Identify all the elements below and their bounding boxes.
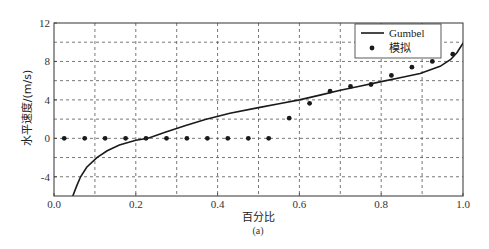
gumbel-line-series — [73, 43, 463, 196]
data-point — [430, 59, 435, 64]
chart: 0.00.20.40.60.81.0 -404812 百分比 (a) 水平速度/… — [0, 0, 489, 249]
legend: Gumbel 模拟 — [355, 24, 441, 58]
data-point — [225, 136, 230, 141]
legend-label-simulation: 模拟 — [389, 41, 411, 55]
gumbel-curve — [73, 43, 463, 196]
x-tick-label: 0.4 — [211, 198, 225, 210]
figure-caption: (a) — [252, 225, 263, 237]
data-point — [266, 136, 271, 141]
data-point — [328, 89, 333, 94]
y-tick-label: 0 — [45, 132, 51, 144]
legend-label-gumbel: Gumbel — [389, 27, 424, 39]
data-point — [450, 52, 455, 57]
data-point — [82, 136, 87, 141]
data-point — [348, 84, 353, 89]
data-point — [410, 65, 415, 70]
data-point — [164, 136, 169, 141]
x-tick-label: 1.0 — [456, 198, 470, 210]
data-point — [185, 136, 190, 141]
data-point — [103, 136, 108, 141]
x-tick-label: 0.8 — [374, 198, 388, 210]
data-point — [123, 136, 128, 141]
y-tick-label: -4 — [41, 171, 51, 183]
x-axis-label: 百分比 — [242, 211, 275, 224]
data-point — [205, 136, 210, 141]
data-point — [307, 101, 312, 106]
y-tick-label: 8 — [45, 55, 51, 67]
x-tick-label: 0.6 — [293, 198, 307, 210]
data-point — [62, 136, 67, 141]
y-axis-label: 水平速度/(m/s) — [20, 70, 34, 146]
data-point — [144, 136, 149, 141]
x-tick-label: 0.0 — [47, 198, 61, 210]
x-tick-label: 0.2 — [129, 198, 143, 210]
data-point — [287, 116, 292, 121]
y-tick-label: 4 — [45, 94, 51, 106]
y-tick-label: 12 — [39, 17, 50, 29]
data-point — [369, 82, 374, 87]
data-point — [246, 136, 251, 141]
data-point — [389, 73, 394, 78]
legend-marker-swatch — [370, 46, 375, 51]
